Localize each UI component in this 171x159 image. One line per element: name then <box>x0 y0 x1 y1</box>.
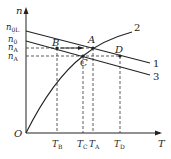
arrow-head-icon <box>78 46 84 50</box>
point-A <box>91 46 94 49</box>
label-B: B <box>51 37 59 48</box>
x-tick-TA: TA <box>89 139 100 150</box>
x-axis-label: T <box>158 138 166 149</box>
x-tick-TD: TD <box>114 139 125 150</box>
y-tick-labels: n0L n0′ nA nA′ <box>6 22 19 62</box>
axes <box>24 7 163 136</box>
label-curve-1: 1 <box>153 58 159 69</box>
label-D: D <box>114 44 123 55</box>
label-curve-3: 3 <box>153 71 159 82</box>
x-tick-labels: TB TC TA TD <box>52 139 125 150</box>
label-curve-2: 2 <box>134 22 140 33</box>
x-axis-arrow-icon <box>155 131 162 136</box>
x-tick-TC: TC <box>77 139 88 150</box>
origin-label: O <box>14 128 22 139</box>
label-A: A <box>87 34 95 45</box>
guide-lines <box>26 48 120 133</box>
x-tick-TB: TB <box>52 139 63 150</box>
y-axis-arrow-icon <box>24 7 29 14</box>
label-C: C <box>80 57 88 68</box>
speed-torque-diagram: B A C D 2 1 3 n T O n0L n0′ nA nA′ TB TC… <box>0 0 171 159</box>
y-axis-label: n <box>16 5 22 16</box>
